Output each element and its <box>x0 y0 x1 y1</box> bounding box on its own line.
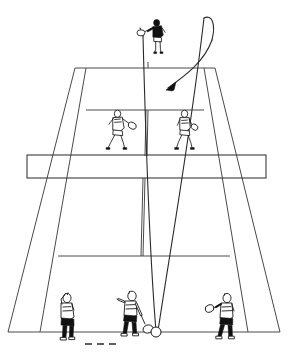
tennis-court <box>8 62 280 332</box>
center-service-line-near <box>141 178 143 256</box>
player-near-center <box>117 291 154 336</box>
player-near-left <box>60 293 75 340</box>
left-doubles-sideline <box>8 68 75 332</box>
player-far-baseline <box>137 19 165 53</box>
tennis-ball <box>151 327 161 337</box>
trajectory-arrowhead <box>166 82 176 91</box>
lob-trajectory <box>85 17 214 344</box>
right-singles-sideline <box>204 68 248 332</box>
right-doubles-sideline <box>215 68 280 332</box>
tennis-diagram-canvas: Tennis doubles lob diagram Perspective v… <box>0 0 289 362</box>
center-service-line-near-b <box>143 178 145 256</box>
racket-far-baseline <box>137 30 145 36</box>
racket-far-net-left <box>127 121 137 130</box>
center-service-line-far-b <box>147 110 148 156</box>
tennis-court-svg <box>0 0 289 362</box>
left-singles-sideline <box>40 68 86 332</box>
racket-near-right <box>204 304 215 314</box>
player-far-net-left <box>106 110 137 149</box>
